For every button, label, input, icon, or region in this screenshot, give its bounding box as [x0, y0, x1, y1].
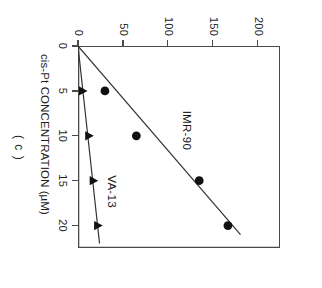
series-trendlines	[78, 46, 240, 244]
series-label-va13: VA-13	[106, 175, 118, 208]
x-tick-label: 0	[57, 31, 69, 61]
y-tick	[257, 40, 258, 46]
y-tick-label: 0	[73, 2, 85, 36]
x-axis-title: cis-Pt CONCENTRATION (µM)	[39, 54, 51, 215]
y-tick-label: 50	[118, 2, 130, 36]
x-tick	[72, 90, 78, 91]
x-tick	[72, 135, 78, 136]
x-tick-label: 10	[57, 121, 69, 151]
y-tick-label: 150	[208, 2, 220, 36]
series-markers	[79, 86, 232, 230]
y-tick	[212, 40, 213, 46]
x-tick	[72, 180, 78, 181]
plot-area	[78, 46, 280, 248]
series-label-imr90: IMR-90	[181, 111, 193, 151]
y-tick	[167, 40, 168, 46]
y-tick	[77, 40, 78, 46]
y-tick	[122, 40, 123, 46]
rotated-figure: 05101520 050100150200 cis-Pt CONCENTRATI…	[0, 0, 322, 288]
y-tick-label: 100	[163, 2, 175, 36]
plot-canvas	[78, 46, 280, 248]
x-tick-label: 5	[57, 76, 69, 106]
x-tick-label: 20	[57, 211, 69, 241]
axis-spines	[78, 46, 280, 248]
x-tick-label: 15	[57, 166, 69, 196]
y-tick-label: 200	[253, 2, 265, 36]
figure-container: 05101520 050100150200 cis-Pt CONCENTRATI…	[0, 0, 322, 288]
panel-label: ( c )	[12, 135, 26, 161]
x-tick	[72, 225, 78, 226]
